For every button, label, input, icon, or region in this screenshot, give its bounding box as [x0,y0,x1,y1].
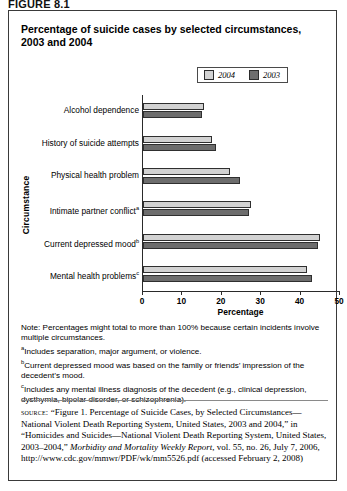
x-tick-label: 20 [216,296,225,306]
note-general: Note: Percentages might total to more th… [21,323,328,343]
source-citation: source: “Figure 1. Percentage of Suicide… [21,407,328,465]
category-label: Current depressed moodb [44,237,139,249]
x-tick [300,291,301,295]
bar-2003 [143,209,249,216]
category-footnote-marker: c [136,270,139,276]
x-tick [142,291,143,295]
x-axis-label: Percentage [142,307,339,317]
bar-chart: Circumstance Alcohol dependenceHistory o… [21,95,339,315]
footnote-b: bCurrent depressed mood was based on the… [21,357,328,381]
bar-2003 [143,144,216,151]
x-tick [260,291,261,295]
legend-label-2004: 2004 [218,70,235,80]
bar-2003 [143,275,312,282]
bar-2003 [143,111,202,118]
legend-swatch-2003 [249,70,259,80]
category-footnote-marker: a [136,205,139,211]
x-tick-label: 0 [140,296,145,306]
plot-area [142,95,339,291]
x-tick-label: 30 [256,296,265,306]
legend-item-2004: 2004 [204,70,235,80]
chart-notes: Note: Percentages might total to more th… [21,323,328,405]
figure-number: FIGURE 8.1 [8,0,70,10]
category-label: Alcohol dependence [64,106,139,115]
bar-2003 [143,177,240,184]
category-footnote-marker: b [136,238,139,244]
source-journal: Morbidity and Mortality Weekly Report [70,442,212,452]
notes-divider [21,400,328,401]
bar-2004 [143,103,204,110]
bar-2004 [143,201,251,208]
x-tick [221,291,222,295]
x-axis-line [142,291,339,292]
figure-frame: Percentage of suicide cases by selected … [8,10,337,481]
x-tick-label: 10 [177,296,186,306]
y-axis-label: Circumstance [19,155,33,255]
chart-title: Percentage of suicide cases by selected … [21,23,321,49]
source-label: source: [21,408,48,417]
legend-swatch-2004 [204,70,214,80]
x-tick [181,291,182,295]
legend-item-2003: 2003 [249,70,280,80]
footnote-c: cIncludes any mental illness diagnosis o… [21,381,328,405]
bar-2004 [143,168,230,175]
category-label: History of suicide attempts [42,139,139,148]
bar-2004 [143,234,320,241]
x-tick [339,291,340,295]
legend-label-2003: 2003 [263,70,280,80]
figure-page: FIGURE 8.1 Percentage of suicide cases b… [0,0,347,491]
category-label: Intimate partner conflicta [50,204,139,216]
bar-2004 [143,266,307,273]
bar-2003 [143,242,318,249]
x-tick-label: 40 [295,296,304,306]
x-tick-label: 50 [334,296,343,306]
y-axis-tick-labels: Alcohol dependenceHistory of suicide att… [35,95,142,291]
bar-2004 [143,136,212,143]
chart-legend: 2004 2003 [197,67,288,83]
footnote-a: aIncludes separation, major argument, or… [21,343,328,357]
category-label: Mental health problemsc [50,269,139,281]
category-label: Physical health problem [51,171,139,180]
